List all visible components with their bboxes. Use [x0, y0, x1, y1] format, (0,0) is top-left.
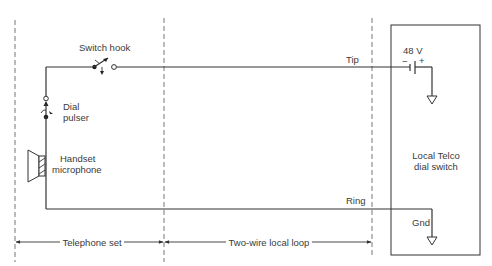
switch-hook-label: Switch hook [79, 42, 130, 53]
two-wire-local-loop-label: Two-wire local loop [229, 237, 310, 248]
battery-icon [410, 61, 432, 96]
microphone-label: microphone [52, 164, 102, 175]
pulser-label: pulser [63, 112, 89, 123]
dial-pulser-icon [41, 96, 53, 119]
gnd-ground-icon [427, 237, 437, 245]
dial-label: Dial [63, 101, 79, 112]
handset-label: Handset [60, 153, 96, 164]
tip-label: Tip [346, 54, 359, 65]
telephone-set-label: Telephone set [62, 237, 122, 248]
ring-label: Ring [346, 195, 366, 206]
telephone-circuit-diagram: Local Telco dial switch Switch hook Tip … [0, 0, 492, 266]
gnd-label: Gnd [412, 217, 430, 228]
battery-minus-label: − [402, 56, 408, 67]
telco-label-line1: Local Telco [412, 150, 459, 161]
handset-microphone-icon [28, 150, 45, 182]
telco-label-line2: dial switch [414, 161, 458, 172]
ground-icon [427, 96, 437, 104]
switch-hook-icon [46, 58, 116, 75]
battery-plus-label: + [419, 55, 425, 66]
